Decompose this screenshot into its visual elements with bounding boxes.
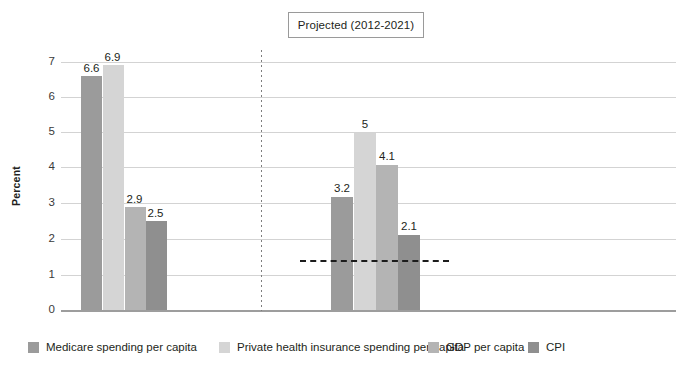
axis-baseline: [61, 310, 676, 312]
legend-swatch-icon-medicare: [28, 342, 39, 353]
bar-value-label-private-insurance-historical: 6.9: [92, 51, 133, 63]
ytick-label-3: 3: [29, 196, 55, 208]
bar-value-label-medicare-historical: 6.6: [71, 62, 112, 74]
bar-value-label-medicare-projected: 3.2: [321, 182, 363, 194]
bar-value-label-cpi-historical: 2.5: [135, 207, 176, 219]
bar-cpi-projected: [398, 235, 420, 310]
legend-swatch-icon-private-insurance: [219, 342, 230, 353]
projected-divider-line: [261, 50, 262, 311]
legend-swatch-icon-gdp: [428, 342, 439, 353]
bar-medicare-historical: [81, 76, 102, 310]
ytick-label-4: 4: [29, 160, 55, 172]
bar-cpi-historical: [146, 221, 167, 310]
bar-value-label-gdp-projected: 4.1: [366, 150, 408, 162]
bar-value-label-gdp-historical: 2.9: [114, 193, 155, 205]
ytick-label-0: 0: [29, 303, 55, 315]
plot-area: 7 6 5 4 3 2 1 0 Percent 6.6 6.9 2.9 2.5: [0, 0, 683, 330]
cpi-reference-dashed-line: [300, 260, 449, 262]
legend-item-medicare[interactable]: Medicare spending per capita: [28, 337, 197, 357]
bar-private-insurance-historical: [103, 65, 124, 310]
bar-gdp-historical: [125, 207, 146, 310]
bar-group-historical: [81, 62, 167, 310]
ytick-label-2: 2: [29, 232, 55, 244]
bar-chart: Projected (2012-2021) 7 6 5 4 3 2 1 0 Pe…: [0, 0, 683, 372]
legend-label-gdp: GDP per capita: [446, 341, 524, 353]
legend-item-gdp[interactable]: GDP per capita: [428, 337, 524, 357]
bar-medicare-projected: [331, 197, 353, 310]
y-axis-label: Percent: [10, 156, 22, 216]
legend-swatch-icon-cpi: [528, 342, 539, 353]
chart-legend: Medicare spending per capita Private hea…: [0, 337, 683, 361]
ytick-label-5: 5: [29, 125, 55, 137]
legend-item-cpi[interactable]: CPI: [528, 337, 565, 357]
ytick-label-1: 1: [29, 268, 55, 280]
legend-label-medicare: Medicare spending per capita: [46, 341, 197, 353]
ytick-label-7: 7: [29, 55, 55, 67]
bar-value-label-private-insurance-projected: 5: [344, 118, 386, 130]
bar-value-label-cpi-projected: 2.1: [388, 220, 430, 232]
ytick-label-6: 6: [29, 90, 55, 102]
bar-gdp-projected: [376, 165, 398, 310]
legend-label-cpi: CPI: [546, 341, 565, 353]
